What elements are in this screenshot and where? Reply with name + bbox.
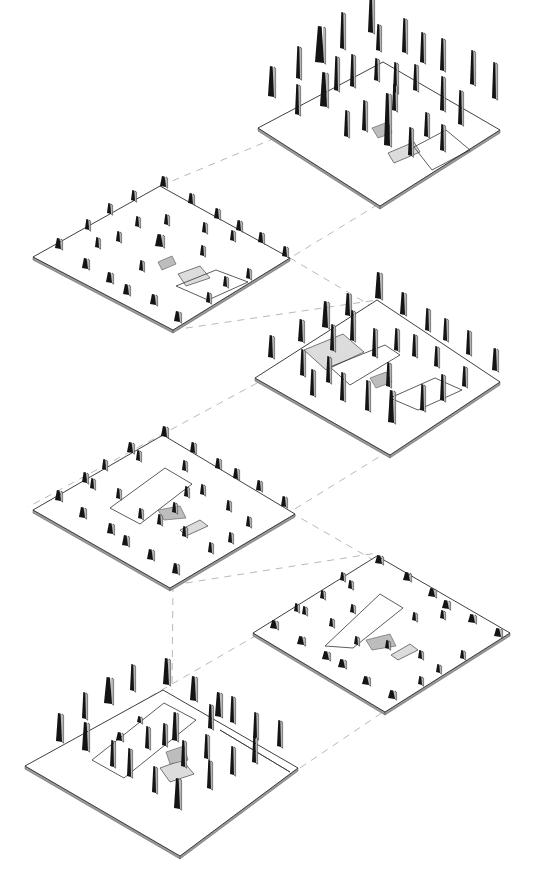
post-side-face: [298, 604, 300, 613]
post: [440, 76, 446, 112]
post: [230, 696, 236, 724]
post-side-face: [344, 13, 346, 50]
post: [252, 736, 258, 764]
post-side-face: [153, 550, 155, 561]
post-side-face: [501, 629, 503, 638]
post: [330, 324, 336, 352]
post-front-face: [163, 658, 169, 685]
post-front-face: [233, 468, 238, 479]
post-side-face: [139, 217, 141, 228]
post-side-face: [474, 51, 476, 86]
post: [492, 62, 498, 100]
post-front-face: [294, 603, 298, 612]
post: [296, 46, 302, 80]
post-side-face: [168, 215, 170, 226]
post-side-face: [230, 501, 232, 512]
post-side-face: [204, 246, 206, 257]
post-front-face: [350, 54, 354, 87]
post-side-face: [186, 461, 188, 472]
post-side-face: [122, 733, 124, 742]
post: [375, 272, 383, 300]
post: [163, 658, 171, 686]
post-side-face: [113, 524, 115, 535]
post-side-face: [424, 33, 426, 64]
post: [190, 676, 198, 702]
post-side-face: [212, 543, 214, 554]
post-side-face: [314, 370, 316, 397]
post-side-face: [178, 564, 180, 575]
post-side-face: [405, 293, 407, 316]
post-front-face: [492, 62, 496, 99]
post-side-face: [273, 336, 275, 359]
post: [492, 348, 499, 372]
post-side-face: [390, 363, 392, 388]
post-side-face: [382, 556, 384, 565]
post-front-face: [236, 220, 241, 231]
post-side-face: [410, 573, 412, 582]
post-front-face: [256, 480, 261, 491]
post-side-face: [416, 613, 418, 622]
post-side-face: [221, 693, 223, 718]
post-side-face: [428, 113, 430, 138]
post-side-face: [299, 85, 301, 116]
post-side-face: [324, 27, 326, 64]
post-front-face: [322, 301, 328, 328]
post-front-face: [402, 18, 406, 53]
post: [56, 713, 64, 743]
post-side-face: [416, 335, 418, 358]
post-side-face: [373, 0, 375, 34]
post-side-face: [376, 329, 378, 358]
post-side-face: [86, 693, 88, 720]
post-side-face: [444, 611, 446, 620]
post-front-face: [190, 442, 195, 453]
post-front-face: [104, 677, 112, 704]
post-side-face: [220, 459, 222, 470]
post-side-face: [156, 295, 158, 306]
post-side-face: [304, 637, 306, 646]
post-side-face: [195, 443, 197, 454]
post: [104, 677, 114, 705]
post-side-face: [134, 665, 136, 692]
post-side-face: [256, 737, 258, 764]
post-side-face: [354, 605, 356, 614]
post-side-face: [188, 487, 190, 498]
post: [268, 66, 276, 98]
post-side-face: [381, 273, 383, 300]
post-side-face: [412, 128, 414, 157]
post-side-face: [496, 63, 498, 100]
post: [400, 292, 407, 316]
post-side-face: [185, 741, 187, 768]
post-front-face: [298, 319, 303, 342]
post-side-face: [111, 204, 113, 215]
post-side-face: [163, 235, 165, 248]
post-front-face: [82, 692, 86, 719]
post-front-face: [470, 50, 474, 85]
post-side-face: [444, 39, 446, 72]
post-side-face: [114, 741, 116, 768]
post-front-face: [376, 24, 380, 51]
post: [334, 56, 340, 92]
post-side-face: [250, 269, 252, 280]
post-side-face: [475, 615, 477, 624]
post-front-face: [440, 76, 444, 111]
post: [215, 692, 223, 718]
post-side-face: [424, 385, 426, 412]
post-side-face: [167, 427, 169, 438]
post-side-face: [140, 451, 142, 462]
plate-6: [25, 658, 298, 859]
post-side-face: [169, 659, 171, 686]
post: [458, 90, 464, 126]
post-side-face: [406, 19, 408, 54]
post-side-face: [366, 101, 368, 132]
post-side-face: [257, 713, 259, 740]
post-side-face: [161, 515, 163, 526]
post-side-face: [354, 55, 356, 88]
post-side-face: [166, 177, 168, 188]
plate-surface: [253, 556, 510, 712]
post-side-face: [241, 221, 243, 232]
post-front-face: [130, 664, 134, 691]
post-side-face: [287, 247, 289, 258]
post-side-face: [234, 697, 236, 724]
post-front-face: [268, 66, 274, 97]
post-side-face: [344, 373, 346, 402]
